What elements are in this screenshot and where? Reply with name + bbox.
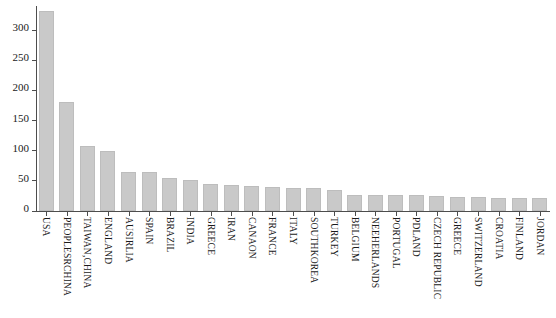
bar (409, 195, 424, 211)
x-axis-tick-label: AUSIRLIA (123, 217, 133, 263)
x-axis-tick-label: FRANCE (267, 217, 277, 256)
y-axis-tick-label: 0 (24, 203, 30, 214)
bar (162, 178, 177, 211)
bar (203, 184, 218, 211)
bar (450, 197, 465, 211)
x-axis-tick-label: CROATIA (493, 217, 503, 260)
x-axis-tick-mark (540, 212, 541, 216)
bar (388, 195, 403, 211)
y-axis-tick-label: 100 (13, 143, 30, 154)
x-axis-tick-mark (272, 212, 273, 216)
x-axis-tick-mark (211, 212, 212, 216)
x-axis-tick-mark (190, 212, 191, 216)
x-axis-tick-label: SWITZERLAND (473, 217, 483, 287)
x-axis-tick-label: FINLAND (514, 217, 524, 260)
x-axis-tick-label: SOUTHKOREA (308, 217, 318, 283)
y-axis-tick-label: 300 (13, 22, 30, 33)
x-axis-tick-label: GREECE (205, 217, 215, 255)
x-axis-tick-mark (355, 212, 356, 216)
x-axis-tick-mark (149, 212, 150, 216)
bar (59, 102, 74, 211)
bar (142, 172, 157, 211)
x-axis-tick-label: BELGIUM (349, 217, 359, 262)
x-axis-tick-label: JORDAN (534, 217, 544, 256)
x-axis-tick-label: USA (41, 217, 51, 237)
bar (80, 146, 95, 211)
x-axis-tick-label: ENGLAND (102, 217, 112, 264)
x-axis-tick-label: ITALY (288, 217, 298, 245)
x-axis-tick-mark (375, 212, 376, 216)
bars-layer (36, 6, 550, 211)
x-axis-labels: USAPEOPLESRCHINATAIWAN,CHINAENGLANDAUSIR… (36, 217, 550, 315)
bar (244, 186, 259, 211)
x-axis-tick-mark (478, 212, 479, 216)
x-axis-tick-mark (252, 212, 253, 216)
x-axis-tick-label: SPAIN (144, 217, 154, 245)
bar (512, 198, 527, 211)
bar (429, 196, 444, 211)
bar (471, 197, 486, 211)
x-axis-tick-mark (87, 212, 88, 216)
y-axis-tick-label: 250 (13, 52, 30, 63)
x-axis-tick-mark (231, 212, 232, 216)
x-axis-tick-mark (108, 212, 109, 216)
x-axis-tick-mark (499, 212, 500, 216)
x-axis-tick-mark (334, 212, 335, 216)
bar-chart: 050100150200250300 USAPEOPLESRCHINATAIWA… (0, 0, 556, 318)
x-axis-tick-label: NEEHERLANDS (370, 217, 380, 288)
y-axis-tick-label: 200 (13, 82, 30, 93)
x-axis-tick-mark (46, 212, 47, 216)
x-axis-tick-mark (519, 212, 520, 216)
x-axis-tick-mark (416, 212, 417, 216)
bar (532, 198, 547, 211)
bar (265, 187, 280, 211)
x-axis-tick-mark (437, 212, 438, 216)
bar (368, 195, 383, 211)
x-axis-tick-label: IRAN (226, 217, 236, 241)
bar (39, 11, 54, 211)
bar (306, 188, 321, 211)
bar (183, 180, 198, 211)
y-axis-tick-label: 150 (13, 113, 30, 124)
x-axis-tick-label: BRAZIL (164, 217, 174, 253)
x-axis-tick-label: CANAON (246, 217, 256, 259)
x-axis-tick-label: GREECE (452, 217, 462, 255)
bar (224, 185, 239, 211)
bar (327, 190, 342, 211)
bar (286, 188, 301, 212)
y-axis-tick-label: 50 (18, 173, 29, 184)
x-axis-tick-label: PEOPLESRCHINA (61, 217, 71, 296)
x-axis-tick-label: PORTUGAL (390, 217, 400, 269)
x-axis-tick-label: TURKEY (329, 217, 339, 257)
x-axis-tick-mark (129, 212, 130, 216)
bar (491, 198, 506, 211)
x-axis-tick-label: PDLAND (411, 217, 421, 257)
x-axis-tick-label: INDIA (185, 217, 195, 245)
x-axis-tick-mark (293, 212, 294, 216)
x-axis-tick-mark (314, 212, 315, 216)
bar (347, 195, 362, 211)
x-axis-tick-label: CZECH REPUBLIC (431, 217, 441, 299)
bar (100, 151, 115, 211)
x-axis-tick-mark (396, 212, 397, 216)
x-axis-tick-label: TAIWAN,CHINA (82, 217, 92, 289)
x-axis-tick-mark (67, 212, 68, 216)
bar (121, 172, 136, 211)
x-axis-tick-mark (457, 212, 458, 216)
x-axis-tick-mark (170, 212, 171, 216)
